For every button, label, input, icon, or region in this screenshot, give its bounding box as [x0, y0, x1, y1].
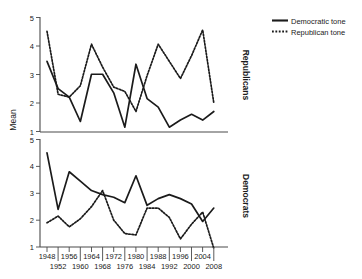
ytick-label: 3 [30, 71, 34, 80]
ytick-label: 4 [30, 42, 34, 51]
ytick-label: 4 [30, 162, 34, 171]
xtick-label: 2000 [183, 262, 200, 271]
panel-label-republicans: Republicans [241, 50, 251, 101]
legend-label-republican-tone: Republican tone [291, 28, 345, 37]
panel-democrats-y-ticks [36, 140, 40, 248]
two-panel-line-chart: 5 4 3 2 1 Republicans 5 4 3 2 1 [0, 0, 362, 279]
ytick-label: 1 [30, 243, 34, 252]
xtick-label: 1980 [128, 252, 145, 261]
xtick-label: 2004 [194, 252, 211, 261]
xtick-label: 1960 [72, 262, 89, 271]
xtick-label: 1992 [161, 262, 178, 271]
ytick-label: 5 [30, 14, 34, 23]
xtick-label: 1996 [172, 252, 189, 261]
legend: Democratic tone Republican tone [272, 17, 346, 37]
ytick-label: 2 [30, 216, 34, 225]
xtick-label: 1988 [150, 252, 167, 261]
xtick-label: 1956 [61, 252, 78, 261]
ytick-label: 5 [30, 136, 34, 145]
xtick-label: 1976 [116, 262, 133, 271]
ytick-label: 2 [30, 99, 34, 108]
x-axis-ticklabels-row2: 1952 1960 1968 1976 1984 1992 2000 2008 [50, 262, 222, 271]
xtick-label: 1972 [105, 252, 122, 261]
xtick-label: 2008 [205, 262, 222, 271]
xtick-label: 1948 [39, 252, 56, 261]
series-democratic-tone-democrats [47, 153, 214, 222]
panel-democrats: 5 4 3 2 1 Democrats [30, 136, 251, 253]
panel-republicans-y-ticks [36, 18, 40, 132]
y-axis-title: Mean [8, 109, 18, 131]
xtick-label: 1984 [139, 262, 156, 271]
ytick-label: 3 [30, 189, 34, 198]
legend-entry-republican-tone: Republican tone [272, 28, 345, 37]
legend-entry-democratic-tone: Democratic tone [272, 17, 346, 26]
panel-democrats-y-ticklabels: 5 4 3 2 1 [30, 136, 34, 253]
xtick-label: 1964 [83, 252, 100, 261]
xtick-label: 1968 [94, 262, 111, 271]
xtick-label: 1952 [50, 262, 67, 271]
series-republican-tone-democrats [47, 191, 214, 249]
panel-republicans-y-ticklabels: 5 4 3 2 1 [30, 14, 34, 137]
legend-label-democratic-tone: Democratic tone [291, 17, 346, 26]
panel-label-democrats: Democrats [241, 174, 251, 218]
panel-republicans: 5 4 3 2 1 Republicans [30, 14, 251, 137]
